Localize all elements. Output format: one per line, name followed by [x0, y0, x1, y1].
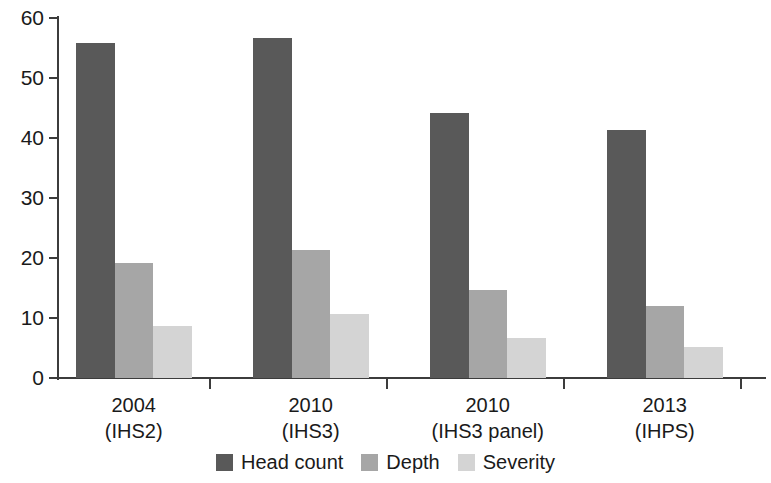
- plot-area: [57, 18, 766, 378]
- bar: [607, 130, 646, 378]
- category-label-line2: (IHS3 panel): [398, 418, 578, 444]
- category-label-line2: (IHPS): [575, 418, 755, 444]
- category-label-line1: 2010: [289, 394, 334, 416]
- x-axis-tick: [386, 379, 388, 389]
- legend-label: Depth: [386, 452, 439, 472]
- x-axis-category-label: 2013(IHPS): [575, 392, 755, 444]
- x-axis-category-label: 2004(IHS2): [44, 392, 224, 444]
- legend-swatch-icon: [216, 454, 233, 471]
- bar: [507, 338, 546, 378]
- bar-chart: 0102030405060 2004(IHS2)2010(IHS3)2010(I…: [0, 0, 771, 483]
- x-axis-tick: [563, 379, 565, 389]
- legend-swatch-icon: [458, 454, 475, 471]
- x-axis-tick: [740, 379, 742, 389]
- category-label-line2: (IHS2): [44, 418, 224, 444]
- legend-item: Head count: [216, 452, 343, 472]
- legend-swatch-icon: [361, 454, 378, 471]
- y-axis-tick-label-text: 30: [0, 187, 44, 208]
- bar: [646, 306, 685, 378]
- y-axis-tick-label-text: 0: [0, 367, 44, 388]
- y-axis-tick-label-text: 40: [0, 127, 44, 148]
- y-axis-tick-label-text: 60: [0, 7, 44, 28]
- legend-item: Severity: [458, 452, 555, 472]
- category-label-line2: (IHS3): [221, 418, 401, 444]
- legend: Head countDepthSeverity: [0, 452, 771, 472]
- bar: [253, 38, 292, 378]
- y-axis-tick-label-text: 50: [0, 67, 44, 88]
- legend-label: Severity: [483, 452, 555, 472]
- category-label-line1: 2010: [466, 394, 511, 416]
- bar: [292, 250, 331, 378]
- bar: [330, 314, 369, 378]
- legend-item: Depth: [361, 452, 439, 472]
- y-axis-tick-label-text: 10: [0, 307, 44, 328]
- x-axis-tick: [209, 379, 211, 389]
- legend-label: Head count: [241, 452, 343, 472]
- bar: [115, 263, 154, 378]
- bar: [469, 290, 508, 378]
- category-label-line1: 2013: [643, 394, 688, 416]
- bar: [76, 43, 115, 378]
- bar: [684, 347, 723, 378]
- bar: [153, 326, 192, 378]
- bar: [430, 113, 469, 378]
- category-label-line1: 2004: [112, 394, 157, 416]
- x-axis-category-label: 2010(IHS3): [221, 392, 401, 444]
- x-axis-category-label: 2010(IHS3 panel): [398, 392, 578, 444]
- y-axis-tick-label-text: 20: [0, 247, 44, 268]
